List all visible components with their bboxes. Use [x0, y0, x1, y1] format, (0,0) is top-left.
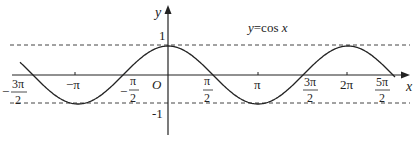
y-tick-1: 1: [159, 28, 166, 43]
x-tick-label-pi-over-2: π 2: [203, 74, 213, 105]
svg-text:2: 2: [15, 93, 21, 107]
x-axis-label: x: [405, 79, 413, 94]
svg-text:−: −: [2, 84, 9, 99]
origin-label: O: [152, 77, 162, 92]
x-tick-label-3pi-over-2: 3π 2: [303, 75, 318, 105]
svg-text:3π: 3π: [12, 77, 24, 91]
svg-text:3π: 3π: [304, 75, 316, 89]
cosine-graph: y x O 1 -1 y=cos x − 3π 2 −π − π 2 π 2 π…: [0, 0, 418, 143]
svg-text:−: −: [120, 84, 127, 99]
x-tick-label-pi: π: [254, 77, 261, 92]
svg-text:2: 2: [307, 91, 313, 105]
x-axis-arrow-icon: [401, 72, 410, 79]
y-tick-neg1: -1: [152, 106, 163, 121]
x-tick-label-neg-pi: −π: [66, 77, 80, 92]
svg-text:2: 2: [204, 91, 210, 105]
x-tick-label-neg-pi-over-2: − π 2: [120, 74, 139, 105]
x-tick-label-2pi: 2π: [340, 77, 354, 92]
svg-text:2: 2: [379, 91, 385, 105]
svg-text:5π: 5π: [376, 75, 388, 89]
svg-text:π: π: [130, 74, 136, 88]
y-axis-arrow-icon: [165, 5, 172, 14]
svg-text:2: 2: [130, 91, 136, 105]
function-label: y=cos x: [246, 20, 288, 35]
x-tick-label-5pi-over-2: 5π 2: [375, 75, 390, 105]
svg-text:π: π: [204, 74, 210, 88]
y-axis-label: y: [153, 5, 162, 20]
x-tick-label-neg-3pi-over-2: − 3π 2: [2, 77, 27, 107]
